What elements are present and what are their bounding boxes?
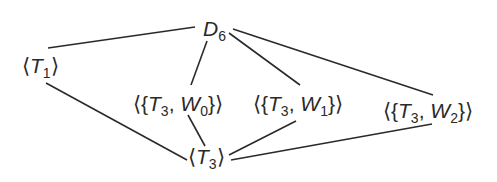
node-base2: W: [180, 92, 200, 115]
angle-close: }⟩: [328, 92, 343, 115]
node-subscript: 6: [218, 28, 226, 44]
angle-close: ⟩: [217, 145, 225, 168]
node-base2: W: [300, 92, 320, 115]
node-base: T: [148, 92, 161, 115]
angle-open: ⟨{: [253, 92, 268, 115]
edge-D6-T3W2: [233, 29, 433, 95]
angle-open: ⟨{: [383, 99, 398, 122]
edge-T3W2-T3: [231, 124, 432, 160]
node-T1: ⟨T1⟩: [22, 55, 59, 80]
angle-close: }⟩: [208, 92, 223, 115]
node-subscript2: 0: [200, 103, 208, 119]
node-subscript: 3: [281, 103, 289, 119]
node-base2: W: [430, 99, 450, 122]
edge-D6-T3W1: [229, 33, 300, 85]
edge-D6-T3W0: [191, 41, 207, 85]
node-T3: ⟨T3⟩: [188, 146, 225, 171]
separator: ,: [289, 92, 301, 115]
node-D6: D6: [203, 18, 226, 43]
angle-close: }⟩: [458, 99, 473, 122]
node-base: T: [268, 92, 281, 115]
separator: ,: [419, 99, 431, 122]
node-subscript: 1: [43, 65, 51, 81]
edge-T3W0-T3: [188, 115, 205, 146]
angle-open: ⟨: [22, 54, 30, 77]
node-T3-W0: ⟨{T3, W0}⟩: [133, 93, 223, 118]
node-subscript: 3: [161, 103, 169, 119]
node-base: T: [398, 99, 411, 122]
node-subscript: 3: [411, 110, 419, 126]
node-subscript2: 2: [450, 110, 458, 126]
node-base: D: [203, 17, 218, 40]
angle-close: ⟩: [51, 54, 59, 77]
angle-open: ⟨: [188, 145, 196, 168]
node-subscript2: 1: [320, 103, 328, 119]
lattice-edges: [0, 0, 497, 182]
node-T3-W2: ⟨{T3, W2}⟩: [383, 100, 473, 125]
subgroup-lattice-diagram: D6 ⟨T1⟩ ⟨{T3, W0}⟩ ⟨{T3, W1}⟩ ⟨{T3, W2}⟩…: [0, 0, 497, 182]
node-T3-W1: ⟨{T3, W1}⟩: [253, 93, 343, 118]
node-subscript: 3: [209, 156, 217, 172]
separator: ,: [169, 92, 181, 115]
node-base: T: [196, 145, 209, 168]
angle-open: ⟨{: [133, 92, 148, 115]
node-base: T: [30, 54, 43, 77]
edge-D6-T1: [48, 27, 195, 48]
